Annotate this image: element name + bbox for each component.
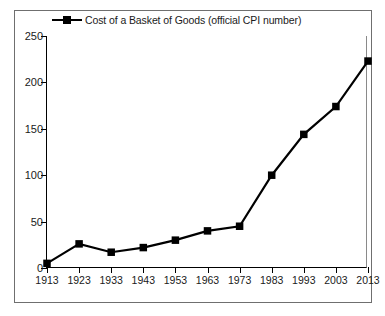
x-axis-label: 2013: [356, 275, 379, 286]
data-point-marker: [268, 171, 276, 179]
x-axis-label: 2003: [324, 275, 347, 286]
chart-legend: Cost of a Basket of Goods (official CPI …: [52, 12, 301, 28]
data-point-marker: [332, 103, 340, 111]
plot-area: 050100150200250 191319231933194319531963…: [46, 36, 367, 268]
x-axis-label: 1913: [35, 275, 58, 286]
data-point-marker: [172, 236, 180, 244]
y-axis-label: 50: [31, 216, 43, 227]
data-point-marker: [204, 227, 212, 235]
chart-figure: Cost of a Basket of Goods (official CPI …: [0, 0, 385, 316]
data-point-marker: [300, 131, 308, 139]
data-point-marker: [75, 240, 83, 248]
data-point-marker: [140, 244, 148, 252]
x-axis-label: 1923: [67, 275, 90, 286]
y-axis-label: 150: [25, 123, 43, 134]
legend-line-marker-icon: [52, 14, 82, 26]
legend-label-cpi: Cost of a Basket of Goods (official CPI …: [82, 14, 301, 26]
x-axis-label: 1943: [132, 275, 155, 286]
x-axis-label: 1983: [260, 275, 283, 286]
x-axis-tick: [368, 267, 369, 273]
x-axis-label: 1993: [292, 275, 315, 286]
x-axis-label: 1973: [228, 275, 251, 286]
y-axis-label: 250: [25, 31, 43, 42]
y-axis-label: 200: [25, 77, 43, 88]
data-point-marker: [43, 260, 51, 268]
data-point-marker: [236, 222, 244, 230]
series-cpi-line: [47, 36, 368, 268]
data-point-marker: [107, 248, 115, 256]
data-point-marker: [364, 57, 372, 65]
y-axis-label: 100: [25, 170, 43, 181]
y-axis-label: 0: [37, 263, 43, 274]
x-axis-label: 1953: [164, 275, 187, 286]
x-axis-label: 1933: [100, 275, 123, 286]
x-axis-label: 1963: [196, 275, 219, 286]
